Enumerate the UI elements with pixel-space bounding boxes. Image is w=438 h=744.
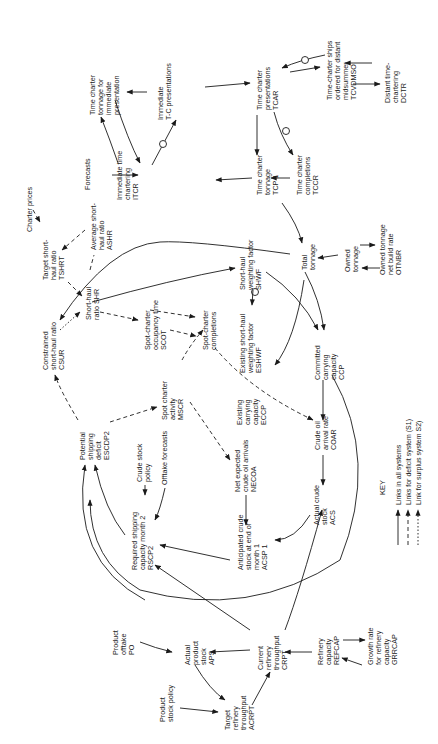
node-acrpt: Target refinery throughput ACRPT [223, 696, 256, 730]
svg-text:ECCP: ECCP [259, 405, 268, 425]
svg-text:RSCP2: RSCP2 [146, 546, 155, 570]
svg-text:ACRPT: ACRPT [247, 705, 256, 730]
svg-text:Charter prices: Charter prices [25, 186, 34, 232]
svg-text:APS: APS [207, 650, 216, 665]
node-shwf: Short-haul weighting factor SHWF [238, 239, 263, 291]
node-grrcap: Growth rate for refinery capacity GRRCAP [366, 627, 399, 665]
svg-text:TCAR: TCAR [271, 90, 280, 110]
node-ashr: Average short- haul ratio ASHR [89, 202, 114, 250]
node-product-stock-policy: Product stock policy [158, 684, 175, 722]
svg-text:GRRCAP: GRRCAP [390, 634, 399, 665]
node-forecasts: Forecasts [83, 158, 92, 190]
svg-text:DCTR: DCTR [399, 83, 408, 103]
links [33, 55, 380, 712]
node-tcar: Time charter presentations TCAR [255, 66, 280, 110]
node-dctr: Distant time- chartering DCTR [383, 62, 408, 103]
causal-loop-diagram: Time charter tonnage for immediate prese… [0, 0, 438, 744]
svg-text:MSCR: MSCR [176, 399, 185, 420]
svg-text:SHWF: SHWF [254, 268, 263, 290]
node-crpt: Current refinery throughput CRPT [256, 636, 289, 670]
legend-dotted-label: Link for surplus system S2) [415, 421, 423, 505]
node-tcvdmso: Time-charter ships ordered for distant m… [325, 40, 358, 100]
svg-text:CCP: CCP [337, 365, 346, 380]
node-acsp1: Anticipated crude stock at end of month … [236, 514, 269, 570]
svg-text:CRPT: CRPT [280, 650, 289, 670]
svg-text:TCP 1: TCP 1 [271, 175, 280, 195]
node-csur: Constrained short-haul ratio CSUR [41, 322, 66, 370]
svg-text:completions: completions [209, 311, 218, 350]
svg-text:TSHRT: TSHRT [57, 256, 66, 280]
svg-text:policy: policy [143, 463, 152, 482]
legend-solid-label: Links in all systems [395, 444, 403, 505]
svg-text:Forecasts: Forecasts [83, 158, 92, 190]
legend-dashed-label: Links for deficit system (S1) [405, 419, 413, 505]
legend: KEY Links in all systems Links for defic… [378, 419, 423, 545]
node-spot-charter-completions: Spot-charter completions [201, 310, 218, 350]
node-ccp: Committed carrying capacity CCP [313, 345, 346, 380]
node-total-tonnage: Total tonnage [300, 244, 317, 270]
svg-text:REFCAP: REFCAP [332, 636, 341, 665]
node-crude-stock-policy: Crude stock policy [135, 443, 152, 482]
node-tshrt: Target short- haul ratio TSHRT [41, 239, 66, 280]
node-owned-tonnage: Owned tonnage [343, 246, 360, 272]
svg-text:ITCR: ITCR [131, 183, 140, 200]
svg-text:COAR: COAR [329, 429, 338, 450]
node-immediate-tc-presentations: Immediate T-C presentations [156, 63, 173, 120]
svg-text:SCOT: SCOT [159, 329, 168, 350]
node-time-charter-tonnage-immediate: Time charter tonnage for immediate prese… [88, 74, 121, 115]
svg-text:OTNBR: OTNBR [394, 250, 403, 275]
svg-text:ACSP 1: ACSP 1 [260, 545, 269, 570]
svg-text:presentation: presentation [112, 75, 121, 115]
node-scot: Spot-charter occupancy time SCOT [143, 300, 168, 350]
node-coar: Crude oil arrival rate COAR [313, 416, 338, 450]
node-necoa: Net expected crude oil arrivals NECOA [233, 439, 258, 492]
svg-text:Offtake forecasts: Offtake forecasts [160, 430, 169, 485]
node-escdp2: Potential shipping deficit ESCDP2 [78, 431, 111, 460]
node-eccp: Existing carrying capacity ECCP [235, 398, 268, 425]
node-shr: Short-haul ratio SHR [84, 286, 101, 320]
node-offtake-forecasts: Offtake forecasts [160, 430, 169, 485]
nodes: Time charter tonnage for immediate prese… [25, 40, 408, 730]
svg-text:TCVDMSO: TCVDMSO [349, 64, 358, 100]
svg-text:stock policy: stock policy [166, 684, 175, 722]
svg-text:ASHR: ASHR [105, 230, 114, 250]
node-refcap: Refinery capacity REFCAP [316, 636, 341, 665]
node-aps: Actual product stock APS [183, 641, 216, 665]
svg-text:PO: PO [127, 644, 136, 655]
node-acs: Actual crude stock ACS [312, 485, 337, 525]
node-tcp1: Time charter tonnage TCP 1 [255, 154, 280, 195]
node-mscr: Spot charter activity MSCR [160, 380, 185, 420]
legend-title: KEY [378, 480, 387, 495]
svg-text:NECOA: NECOA [249, 466, 258, 492]
node-rscp2: Required shipping capacity month 2 RSCP2 [130, 512, 155, 570]
svg-text:ESCDP2: ESCDP2 [102, 431, 111, 460]
svg-text:ratio SHR: ratio SHR [92, 289, 101, 320]
svg-text:ACS: ACS [328, 510, 337, 525]
node-eshwf: Existing short-haul weighting factor ESH… [238, 313, 263, 374]
node-charter-prices: Charter prices [25, 186, 34, 232]
svg-text:T-C presentations: T-C presentations [164, 63, 173, 120]
node-otnbr: Owned tonnage net build rate OTNBR [378, 224, 403, 275]
svg-text:tonnage: tonnage [351, 246, 360, 272]
node-po: Product offtake PO [111, 630, 136, 655]
svg-text:CSUR: CSUR [57, 350, 66, 370]
svg-text:ESHWF: ESHWF [254, 346, 263, 373]
svg-text:TCCR: TCCR [311, 175, 320, 195]
node-tccr: Time charter completions TCCR [295, 154, 320, 195]
svg-text:tonnage: tonnage [308, 244, 317, 270]
